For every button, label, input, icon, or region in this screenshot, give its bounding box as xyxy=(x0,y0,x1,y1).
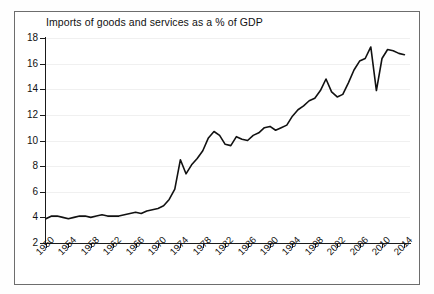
y-tick-label-12: 12 xyxy=(14,110,38,120)
y-tick-label-text: 10 xyxy=(27,136,38,146)
y-tick-label-text: 4 xyxy=(32,212,38,222)
y-tick-label-text: 6 xyxy=(32,187,38,197)
y-tick-label-text: 12 xyxy=(27,110,38,120)
y-tick-14 xyxy=(40,89,45,90)
y-tick-16 xyxy=(40,64,45,65)
y-tick-18 xyxy=(40,38,45,39)
y-tick-label-text: 14 xyxy=(27,84,38,94)
y-tick-label-text: 18 xyxy=(27,33,38,43)
y-tick-label-18: 18 xyxy=(14,33,38,43)
y-tick-label-16: 16 xyxy=(14,59,38,69)
y-tick-label-text: 16 xyxy=(27,59,38,69)
y-tick-label-4: 4 xyxy=(14,212,38,222)
y-tick-label-14: 14 xyxy=(14,84,38,94)
y-tick-label-8: 8 xyxy=(14,161,38,171)
y-tick-10 xyxy=(40,141,45,142)
y-tick-6 xyxy=(40,192,45,193)
y-tick-label-10: 10 xyxy=(14,136,38,146)
y-tick-label-6: 6 xyxy=(14,187,38,197)
chart-figure: Imports of goods and services as a % of … xyxy=(0,0,434,294)
series-svg xyxy=(46,38,410,243)
y-tick-4 xyxy=(40,217,45,218)
y-tick-12 xyxy=(40,115,45,116)
plot-area xyxy=(46,38,410,243)
y-tick-label-text: 8 xyxy=(32,161,38,171)
series-line-imports xyxy=(46,47,404,219)
chart-title: Imports of goods and services as a % of … xyxy=(46,16,263,28)
y-tick-8 xyxy=(40,166,45,167)
